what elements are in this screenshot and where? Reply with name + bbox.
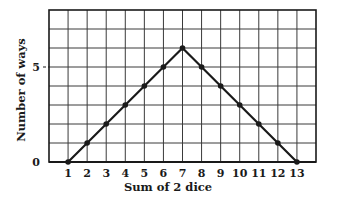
data-point xyxy=(65,159,71,165)
x-tick-label: 3 xyxy=(102,167,110,180)
data-point xyxy=(122,102,128,108)
y-axis-label: Number of ways xyxy=(14,38,28,142)
x-tick-label: 2 xyxy=(83,167,91,180)
x-tick-label: 1 xyxy=(64,167,72,180)
x-tick-label: 12 xyxy=(270,167,285,180)
x-tick-label: 6 xyxy=(160,167,168,180)
x-tick-label: 5 xyxy=(141,167,149,180)
data-point xyxy=(275,140,281,146)
data-point xyxy=(199,64,205,70)
data-point xyxy=(180,45,186,51)
x-tick-label: 9 xyxy=(217,167,225,180)
x-axis-tick-labels: 12345678910111213 xyxy=(64,167,304,180)
grid-lines xyxy=(49,10,316,162)
data-point xyxy=(103,121,109,127)
data-point xyxy=(256,121,262,127)
x-axis-label: Sum of 2 dice xyxy=(124,180,212,194)
x-tick-label: 8 xyxy=(198,167,206,180)
x-tick-label: 7 xyxy=(179,167,187,180)
y-tick-label: 5 xyxy=(32,61,40,74)
data-point xyxy=(142,83,148,89)
data-point xyxy=(294,159,300,165)
x-tick-label: 10 xyxy=(232,167,248,180)
y-axis-tick-labels: 05 xyxy=(32,61,40,169)
data-point xyxy=(84,140,90,146)
y-tick-label: 0 xyxy=(32,156,40,169)
data-point xyxy=(218,83,224,89)
x-tick-label: 11 xyxy=(251,167,266,180)
x-tick-label: 13 xyxy=(289,167,304,180)
data-point xyxy=(237,102,243,108)
data-point xyxy=(161,64,167,70)
line-chart: 12345678910111213 05 Sum of 2 dice Numbe… xyxy=(0,0,337,205)
x-tick-label: 4 xyxy=(121,167,129,180)
